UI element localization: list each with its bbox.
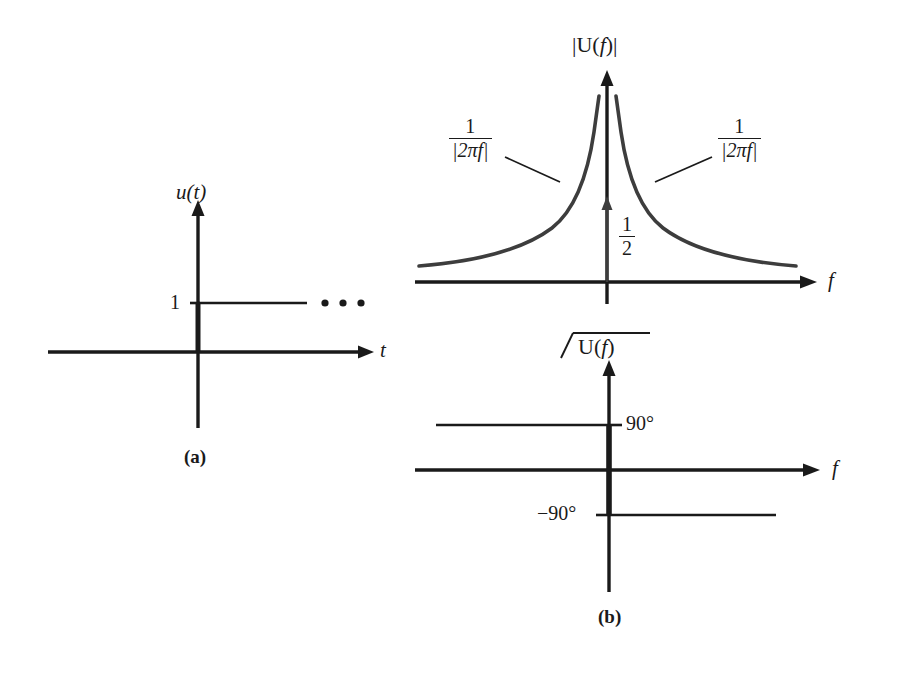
magnitude-left-curve-label: 1 |2πf| — [449, 116, 492, 161]
figure-unit-step-fourier-transform: u(t) t 1 (a) |U(f)| f 1 |2πf| 1 |2πf| 1 … — [0, 0, 897, 673]
figure-line-art — [0, 0, 897, 673]
impulse-weight-numerator: 1 — [619, 214, 635, 236]
right-curve-label-numerator: 1 — [718, 116, 761, 138]
panel-a-step-trace — [190, 299, 365, 352]
magnitude-impulse-arrow — [602, 196, 613, 282]
phase-plot-title: U(f) — [578, 336, 615, 358]
left-curve-label-numerator: 1 — [449, 116, 492, 138]
phase-positive-tick-label: 90° — [626, 413, 654, 433]
magnitude-plot-title: |U(f)| — [572, 34, 617, 56]
panel-a-x-axis-label: t — [380, 340, 386, 361]
panel-a-amplitude-tick-label: 1 — [170, 292, 180, 312]
panel-a-caption: (a) — [184, 447, 206, 466]
panel-b-caption: (b) — [598, 607, 621, 626]
panel-a-axes — [48, 200, 374, 428]
magnitude-x-axis-label: f — [828, 270, 834, 291]
phase-title-text: U(f) — [578, 334, 615, 359]
magnitude-right-curve-label: 1 |2πf| — [718, 116, 761, 161]
right-curve-label-denominator: |2πf| — [718, 138, 761, 161]
phase-negative-tick-label: −90° — [537, 503, 576, 523]
phase-x-axis-label: f — [832, 458, 838, 479]
magnitude-title-text: |U(f)| — [572, 32, 617, 57]
magnitude-impulse-weight-label: 1 2 — [619, 214, 635, 259]
phase-plot-axes — [415, 360, 820, 592]
panel-a-y-axis-label: u(t) — [176, 182, 206, 203]
left-curve-label-denominator: |2πf| — [449, 138, 492, 161]
impulse-weight-denominator: 2 — [619, 236, 635, 259]
